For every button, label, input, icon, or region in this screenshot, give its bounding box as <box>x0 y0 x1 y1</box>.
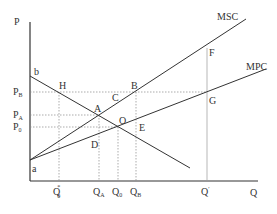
mpc-label: MPC <box>246 61 267 72</box>
y-tick-p0: P0 <box>13 121 22 133</box>
x-tick-qprime: Q′ <box>201 186 210 197</box>
point-e: E <box>139 122 145 133</box>
msc-label: MSC <box>217 11 238 22</box>
x-axis-label: Q <box>250 187 258 198</box>
y-tick-pb: PB <box>13 86 23 98</box>
point-a: A <box>94 103 102 114</box>
x-tick-q0star: Q*0 <box>53 184 61 199</box>
point-d: D <box>91 139 98 150</box>
point-h: H <box>59 80 66 91</box>
demand-line <box>30 76 190 168</box>
point-c: C <box>112 92 119 103</box>
y-tick-pa: PA <box>13 109 24 121</box>
x-tick-qb: QB <box>130 186 141 198</box>
y-axis-label: P <box>14 16 20 27</box>
point-o: O <box>119 115 126 126</box>
x-tick-q0: Q0 <box>112 186 122 198</box>
externality-diagram: P Q MSC MPC b a H B C A O E D F G PB PA … <box>0 0 277 214</box>
b-label: b <box>34 66 39 77</box>
point-f: F <box>209 47 215 58</box>
point-g: G <box>209 95 216 106</box>
x-tick-qa: QA <box>93 186 105 198</box>
a-label: a <box>32 163 37 174</box>
point-b: B <box>131 80 138 91</box>
